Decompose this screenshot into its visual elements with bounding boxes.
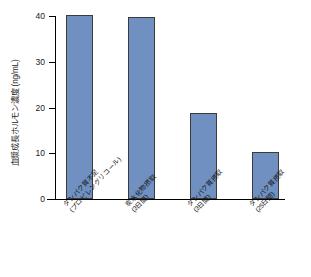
y-tick-label-30: 30 (23, 58, 45, 67)
bar-1[interactable] (128, 17, 155, 199)
y-tick-label-40: 40 (23, 12, 45, 21)
y-axis-title: 血漿成長ホルモン濃度 (ng/mL) (8, 0, 22, 38)
growth-hormone-bar-chart: 血漿成長ホルモン濃度 (ng/mL) 40 30 20 10 0 タンパク質不足… (0, 0, 311, 277)
y-tick-label-0: 0 (23, 195, 45, 204)
y-axis-title-text: 血漿成長ホルモン濃度 (ng/mL) (8, 38, 20, 188)
y-tick-label-10: 10 (23, 149, 45, 158)
bar-0[interactable] (66, 15, 93, 199)
y-tick-label-20: 20 (23, 104, 45, 113)
